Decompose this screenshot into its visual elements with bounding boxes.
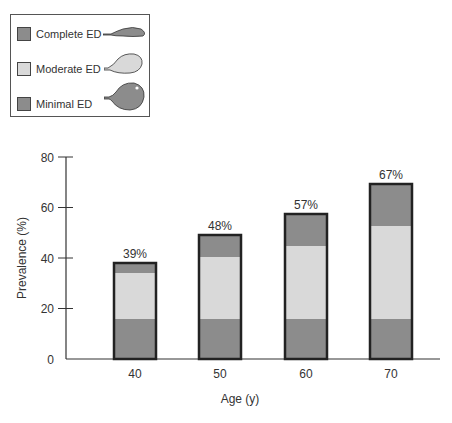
x-tick-label: 60 [299, 367, 313, 381]
bar-total-label: 48% [208, 219, 232, 233]
y-tick-label: 20 [41, 302, 55, 316]
bar-50: 48% [199, 219, 241, 359]
bar-60: 57% [285, 198, 327, 359]
x-axis-label: Age (y) [221, 392, 260, 406]
y-axis-label: Prevalence (%) [15, 217, 29, 299]
stacked-bar-chart: 80 60 40 20 0 Prevalence (%) 39% 48% 57%… [0, 0, 452, 423]
bar-40: 39% [114, 247, 156, 359]
y-tick-label: 80 [41, 151, 55, 165]
bar-70: 67% [370, 168, 412, 359]
bar-total-label: 67% [379, 168, 403, 182]
y-ticks: 80 60 40 20 0 [41, 151, 73, 367]
bar-total-label: 39% [123, 247, 147, 261]
y-tick-label: 40 [41, 252, 55, 266]
bar-total-label: 57% [294, 198, 318, 212]
y-tick-label: 0 [47, 353, 54, 367]
x-tick-label: 40 [128, 367, 142, 381]
x-tick-label: 50 [213, 367, 227, 381]
x-tick-label: 70 [384, 367, 398, 381]
y-tick-label: 60 [41, 201, 55, 215]
